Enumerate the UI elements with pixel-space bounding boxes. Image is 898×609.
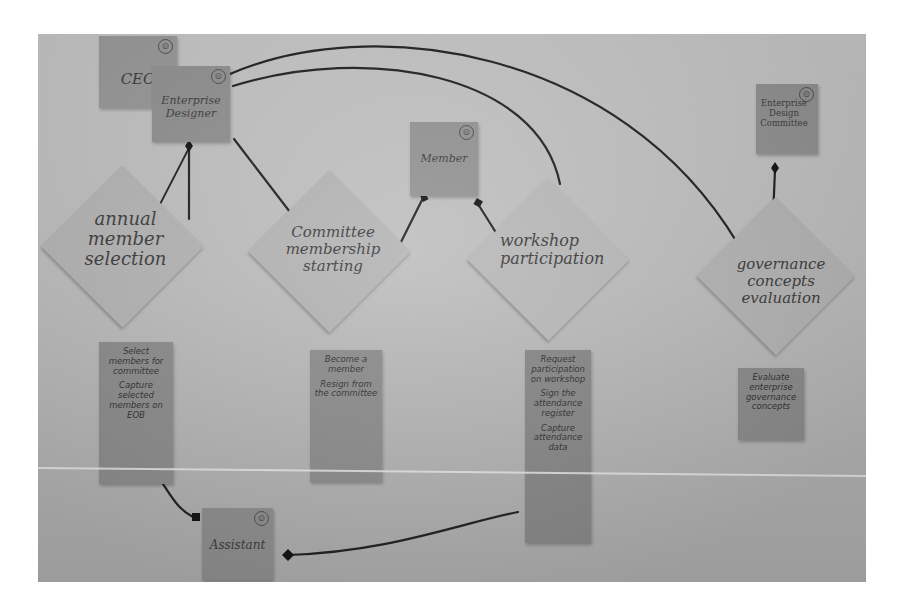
task-item: Sign the attendance register [529, 389, 587, 418]
task-note-annual: Select members for committee Capture sel… [99, 342, 173, 484]
activity-label-workshop: workshop participation [500, 232, 620, 268]
actor-note-assistant: ☺ Assistant [202, 508, 273, 580]
actor-note-enterprise-designer: ☺ Enterprise Designer [152, 66, 230, 142]
actor-note-member: ☺ Member [410, 122, 478, 196]
task-note-workshop: Request participation on workshop Sign t… [525, 350, 591, 543]
actor-label: Assistant [202, 538, 273, 552]
actor-note-enterprise-design-committee: ☺ Enterprise Design Committee [756, 84, 818, 154]
actor-label: Enterprise Design Committee [756, 98, 818, 128]
whiteboard-photo: ☺ CEO ☺ Enterprise Designer ☺ Member ☺ E… [38, 34, 866, 582]
task-item: Evaluate enterprise governance concepts [742, 373, 800, 412]
task-item: Become a member [314, 355, 378, 375]
task-item: Resign from the committee [314, 380, 378, 400]
task-item: Request participation on workshop [529, 355, 587, 384]
actor-label: Member [410, 152, 478, 165]
actor-label: Enterprise Designer [152, 94, 230, 120]
task-item: Select members for committee [103, 347, 169, 376]
task-note-governance: Evaluate enterprise governance concepts [738, 368, 804, 440]
task-item: Capture selected members on EOB [103, 381, 169, 420]
smiley-icon: ☺ [459, 125, 474, 140]
smiley-icon: ☺ [211, 69, 226, 84]
activity-label-annual: annual member selection [68, 209, 183, 269]
smiley-icon: ☺ [158, 39, 173, 54]
task-note-committee: Become a member Resign from the committe… [310, 350, 382, 482]
activity-label-committee: Committee membership starting [278, 224, 388, 274]
activity-label-governance: governance concepts evaluation [726, 256, 836, 306]
task-item: Capture attendance data [529, 424, 587, 453]
smiley-icon: ☺ [254, 511, 269, 526]
